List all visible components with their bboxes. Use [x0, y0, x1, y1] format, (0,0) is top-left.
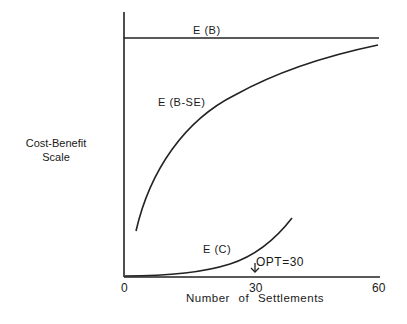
x-axis-label: Number of Settlements	[186, 292, 324, 304]
label-e-c: E (C)	[203, 243, 231, 255]
x-tick-60: 60	[372, 281, 385, 295]
y-axis-label: Cost-Benefit Scale	[20, 136, 92, 164]
label-e-b-se: E (B-SE)	[158, 96, 205, 108]
x-tick-0: 0	[121, 281, 128, 295]
label-e-b: E (B)	[193, 24, 221, 36]
label-opt: OPT=30	[256, 255, 304, 269]
y-axis-label-line1: Cost-Benefit	[20, 136, 92, 150]
curve-e-b-se	[136, 45, 378, 231]
y-axis-label-line2: Scale	[20, 150, 92, 164]
